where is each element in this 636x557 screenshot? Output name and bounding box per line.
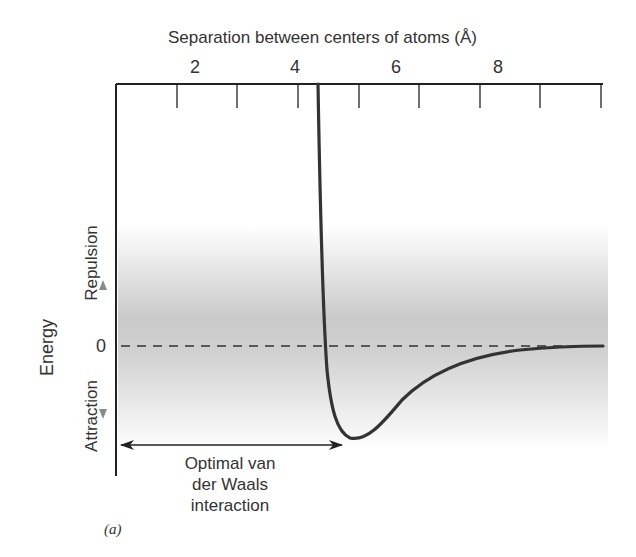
- optimal-interaction-annotation: Optimal van der Waals interaction: [150, 453, 310, 516]
- x-axis-ticks: [116, 84, 601, 108]
- annotation-line-2: der Waals: [150, 474, 310, 495]
- annotation-line-3: interaction: [150, 495, 310, 516]
- annotation-line-1: Optimal van: [150, 453, 310, 474]
- y-zero-label: 0: [96, 336, 106, 357]
- y-axis-title: Energy: [37, 318, 58, 378]
- repulsion-label: Repulsion: [82, 213, 102, 313]
- energy-diagram: Separation between centers of atoms (Å) …: [0, 0, 636, 557]
- energy-band-shading: [118, 225, 608, 450]
- attraction-label: Attraction: [82, 366, 102, 466]
- panel-label: (a): [104, 521, 122, 538]
